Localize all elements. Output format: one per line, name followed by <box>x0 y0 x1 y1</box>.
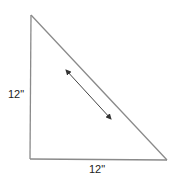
bottom-side <box>30 159 167 160</box>
left-side-label: 12" <box>8 88 24 100</box>
triangle <box>30 15 167 160</box>
left-side <box>30 15 31 159</box>
hypotenuse <box>31 15 167 160</box>
double-arrow-icon <box>66 70 111 119</box>
bottom-side-label: 12" <box>89 163 105 175</box>
triangle-diagram: 12" 12" <box>0 0 179 179</box>
